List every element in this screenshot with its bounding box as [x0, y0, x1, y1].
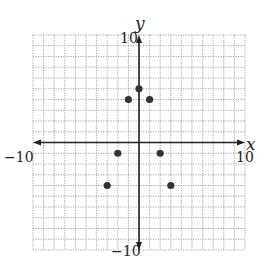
data-point — [146, 96, 153, 103]
data-point — [157, 150, 164, 157]
data-point — [114, 150, 121, 157]
data-point — [104, 182, 111, 189]
x-axis-arrow-left-icon — [33, 140, 41, 146]
data-point — [135, 85, 142, 92]
data-point — [167, 182, 174, 189]
x-min-tick-label: −10 — [4, 149, 34, 165]
x-axis-arrow-right-icon — [237, 140, 245, 146]
y-min-tick-label: −10 — [111, 243, 141, 259]
data-point — [125, 96, 132, 103]
x-axis-label: x — [246, 134, 256, 154]
y-axis-label: y — [134, 13, 145, 33]
coordinate-plane: −10 10 10 −10 x y — [0, 0, 267, 262]
